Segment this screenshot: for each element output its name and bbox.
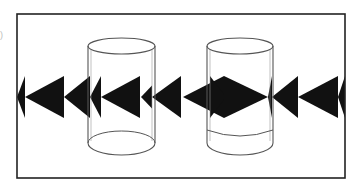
arrowhead-left-icon: [298, 76, 338, 118]
arrowhead-left-icon: [338, 76, 345, 118]
arrowhead-left-icon: [90, 76, 101, 118]
arrowhead-left-icon: [101, 76, 140, 118]
arrowhead-left-icon: [64, 76, 90, 118]
arrowhead-left-icon: [272, 76, 298, 118]
arrowhead-left-icon: [141, 85, 152, 108]
arrowhead-left-icon: [25, 76, 64, 118]
arrow-band: [17, 76, 345, 118]
arrowhead-right-icon: [224, 76, 268, 118]
arrowhead-left-icon: [152, 76, 181, 118]
arrowhead-left-icon: [17, 76, 25, 118]
refraction-diagram: [0, 0, 360, 188]
